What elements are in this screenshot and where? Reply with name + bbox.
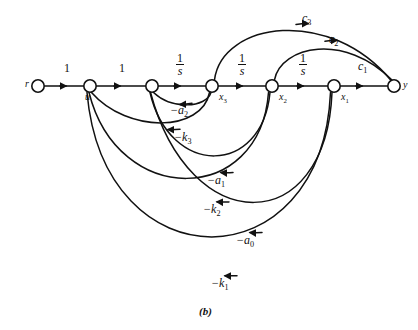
node-r: [32, 80, 44, 92]
fraction-denominator: s: [299, 65, 307, 77]
fraction-numerator: 1: [299, 52, 307, 65]
signal-flow-graph-canvas: [0, 0, 418, 330]
edge-gain-n1-x3: 1s: [176, 52, 184, 77]
edge-gain-x1-n1-sub: 0: [250, 240, 254, 249]
edge-gain-x2-u-base: −k: [203, 202, 216, 216]
edge-gain-x1-u: −k1: [211, 277, 229, 293]
node-label-x3-sub: 3: [223, 97, 226, 104]
edge-gain-x1-n1: −a0: [236, 234, 254, 250]
fraction-1-over-s: 1s: [299, 52, 307, 77]
edge-gain-x1-n1-base: −a: [236, 233, 250, 247]
edges-layer: [45, 24, 393, 276]
edge-gain-x3-n1-sub: 2: [184, 110, 188, 119]
edge-gain-x2-n1: −a1: [207, 174, 225, 190]
edge-gain-x2-u-sub: 2: [216, 209, 220, 218]
node-label-x2-sub: 2: [283, 97, 286, 104]
fraction-1-over-s: 1s: [238, 52, 246, 77]
edge-gain-x3-y-sub: 3: [307, 18, 311, 27]
node-label-x3: x3: [219, 92, 227, 105]
edge-gain-x2-n1-sub: 1: [221, 180, 225, 189]
edge-gain-x1-y-sub: 1: [363, 66, 367, 75]
node-label-x1: x1: [341, 92, 349, 105]
fraction-denominator: s: [176, 65, 184, 77]
fraction-denominator: s: [238, 65, 246, 77]
node-label-r: r: [25, 79, 29, 89]
node-x2: [266, 80, 278, 92]
edge-gain-x2-n1-base: −a: [207, 173, 221, 187]
edge-gain-x2-y: c2: [329, 33, 338, 49]
edge-gain-x3-n1-base: −a: [170, 103, 184, 117]
fraction-numerator: 1: [238, 52, 246, 65]
edge-gain-x3-u: −k3: [174, 131, 192, 147]
signal-flow-graph-figure: r u x3 x2 x1 y 1 1 1s 1s 1s c1 c2 c3 −a2…: [0, 0, 418, 330]
edge-gain-x2-x1: 1s: [299, 52, 307, 77]
fraction-1-over-s: 1s: [176, 52, 184, 77]
edge-x2-y: [275, 49, 393, 80]
edge-gain-x1-u-sub: 1: [224, 283, 228, 292]
edge-gain-x2-y-sub: 2: [334, 39, 338, 48]
edge-gain-r-u: 1: [64, 62, 70, 74]
node-y: [388, 80, 400, 92]
edge-gain-x3-u-sub: 3: [187, 137, 191, 146]
figure-caption: (b): [199, 305, 212, 317]
node-label-u: u: [85, 92, 90, 102]
node-x3: [206, 80, 218, 92]
fraction-numerator: 1: [176, 52, 184, 65]
edge-gain-x3-u-base: −k: [174, 130, 187, 144]
node-label-x2: x2: [279, 92, 287, 105]
edge-gain-u-n1: 1: [119, 62, 125, 74]
node-x1: [328, 80, 340, 92]
edge-gain-x3-n1: −a2: [170, 104, 188, 120]
edge-gain-x3-x2: 1s: [238, 52, 246, 77]
edge-gain-x1-y: c1: [358, 60, 367, 76]
edge-gain-x3-y: c3: [302, 12, 311, 28]
edge-gain-x2-u: −k2: [203, 203, 221, 219]
edge-gain-x1-u-base: −k: [211, 276, 224, 290]
node-label-x1-sub: 1: [345, 97, 348, 104]
node-unlabeled: [146, 80, 158, 92]
node-label-y: y: [403, 80, 407, 90]
